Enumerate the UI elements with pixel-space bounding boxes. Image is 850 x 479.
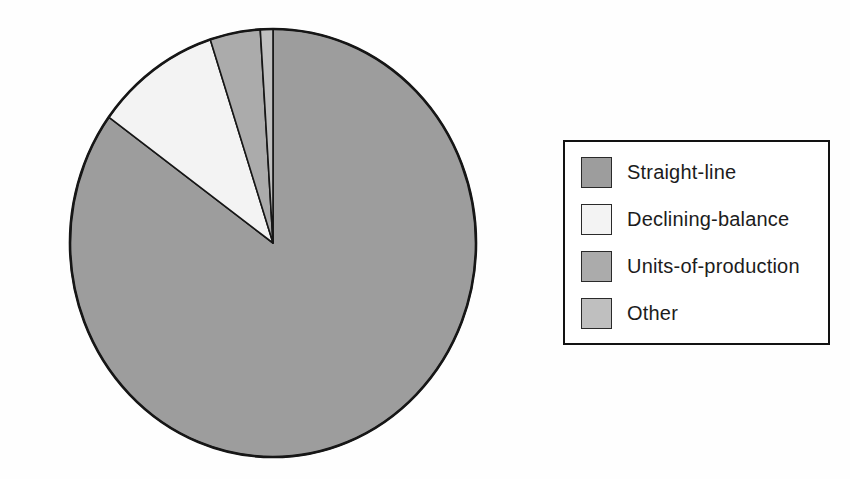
- figure-canvas: Straight-line Declining-balance Units-of…: [0, 0, 850, 479]
- legend-label-units-of-production: Units-of-production: [627, 255, 800, 278]
- legend-item-straight-line: Straight-line: [581, 157, 828, 188]
- legend-item-other: Other: [581, 298, 828, 329]
- legend-label-other: Other: [627, 302, 678, 325]
- legend-swatch-declining-balance: [581, 204, 612, 235]
- pie-chart: [0, 0, 500, 479]
- legend-label-declining-balance: Declining-balance: [627, 208, 789, 231]
- legend: Straight-line Declining-balance Units-of…: [563, 140, 830, 345]
- legend-item-units-of-production: Units-of-production: [581, 251, 828, 282]
- legend-item-declining-balance: Declining-balance: [581, 204, 828, 235]
- pie-chart-svg: [0, 0, 500, 479]
- legend-swatch-straight-line: [581, 157, 612, 188]
- legend-label-straight-line: Straight-line: [627, 161, 736, 184]
- legend-swatch-units-of-production: [581, 251, 612, 282]
- legend-swatch-other: [581, 298, 612, 329]
